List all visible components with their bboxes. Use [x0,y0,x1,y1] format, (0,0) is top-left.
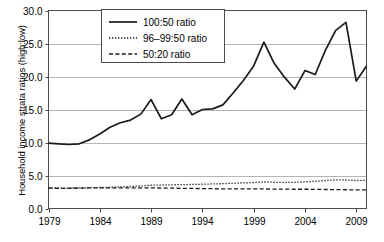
legend-label[interactable]: 50:20 ratio [143,49,191,60]
legend-label[interactable]: 100:50 ratio [143,17,196,28]
chart-legend[interactable]: 100:50 ratio96–99:50 ratio50:20 ratio [102,10,225,63]
x-tick-label: 1979 [38,216,61,227]
y-tick-label: 25.0 [23,39,43,50]
x-tick-label: 2009 [345,216,368,227]
y-tick-label: 0.0 [29,204,43,215]
x-tick-label: 1984 [89,216,112,227]
series-line [49,180,367,188]
line-chart-plot: 0.05.010.015.020.025.030.0 1979198419891… [0,0,384,242]
y-tick-label: 30.0 [23,6,43,17]
y-tick-label: 5.0 [29,171,43,182]
y-tick-label: 20.0 [23,72,43,83]
x-tick-label: 1994 [191,216,214,227]
series-line [49,188,367,190]
y-axis-ticks-group: 0.05.010.015.020.025.030.0 [23,6,43,215]
x-tick-label: 1999 [243,216,266,227]
legend-label[interactable]: 96–99:50 ratio [143,33,207,44]
y-tick-label: 10.0 [23,138,43,149]
x-tick-label: 1989 [140,216,163,227]
x-tick-label: 2004 [294,216,317,227]
x-axis-ticks-group: 1979198419891994199920042009 [38,209,368,227]
chart-figure: Household income strata ratios (high:low… [0,0,384,242]
y-tick-label: 15.0 [23,105,43,116]
